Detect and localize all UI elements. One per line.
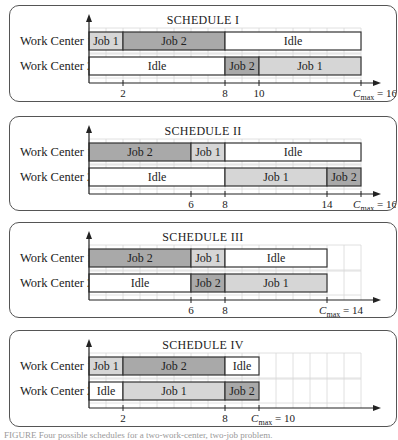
gantt-chart: Job 2Job 1IdleIdleJob 1Job 26814Cmax = 1… (10, 117, 396, 210)
bar-label: Job 2 (195, 276, 221, 290)
gantt-bar-job2: Job 2 (89, 143, 191, 161)
gantt-bar-job1: Job 1 (191, 249, 225, 267)
bar-label: Idle (97, 384, 116, 398)
tick-label: 8 (222, 412, 228, 424)
bar-label: Job 2 (161, 359, 187, 373)
tick-label: 14 (322, 198, 334, 210)
bar-label: Job 1 (161, 384, 187, 398)
gantt-bar-job1: Job 1 (225, 274, 327, 292)
gantt-bar-job1: Job 1 (123, 382, 225, 400)
gantt-bar-job2: Job 2 (327, 168, 361, 186)
bar-label: Idle (148, 170, 167, 184)
gantt-bar-job1: Job 1 (259, 57, 361, 75)
bar-label: Job 2 (229, 384, 255, 398)
bar-label: Idle (284, 145, 303, 159)
gantt-bar-idle: Idle (225, 249, 327, 267)
bar-label: Job 1 (263, 276, 289, 290)
gantt-bar-idle: Idle (225, 32, 361, 50)
bar-label: Job 1 (263, 170, 289, 184)
tick-label: 6 (188, 198, 194, 210)
cmax-label: Cmax = 16 (353, 87, 396, 101)
tick-label: 10 (254, 87, 266, 99)
bar-label: Job 2 (229, 59, 255, 73)
cmax-label: Cmax = 16 (353, 198, 396, 210)
tick-label: 8 (222, 304, 228, 316)
gantt-bar-job2: Job 2 (123, 32, 225, 50)
bar-label: Job 1 (93, 359, 119, 373)
gantt-bar-job2: Job 2 (225, 382, 259, 400)
tick-label: 8 (222, 198, 228, 210)
gantt-bar-idle: Idle (89, 57, 225, 75)
gantt-bar-job2: Job 2 (123, 357, 225, 375)
bar-label: Idle (131, 276, 150, 290)
cmax-label: Cmax = 14 (319, 304, 363, 317)
bar-label: Job 1 (93, 34, 119, 48)
schedule-panel-4: SCHEDULE IVWork Center 1Work Center 2Job… (9, 330, 397, 427)
gantt-chart: Job 2Job 1IdleIdleJob 2Job 168Cmax = 14 (10, 223, 396, 317)
tick-label: 8 (222, 87, 228, 99)
bar-label: Job 2 (161, 34, 187, 48)
gantt-bar-job2: Job 2 (225, 57, 259, 75)
tick-label: 2 (120, 87, 126, 99)
gantt-bar-job1: Job 1 (225, 168, 327, 186)
schedule-panel-1: SCHEDULE IWork Center 1Work Center 2Job … (9, 5, 397, 102)
bar-label: Idle (233, 359, 252, 373)
gantt-bar-job2: Job 2 (191, 274, 225, 292)
gantt-bar-job2: Job 2 (89, 249, 191, 267)
bar-label: Job 1 (195, 145, 221, 159)
bar-label: Idle (267, 251, 286, 265)
gantt-bar-idle: Idle (89, 382, 123, 400)
bar-label: Job 1 (195, 251, 221, 265)
gantt-chart: Job 1Job 2IdleIdleJob 1Job 228Cmax = 10 (10, 331, 396, 426)
schedule-panel-3: SCHEDULE IIIWork Center 1Work Center 2Jo… (9, 222, 397, 318)
bar-label: Job 1 (297, 59, 323, 73)
gantt-bar-idle: Idle (89, 168, 225, 186)
gantt-bar-job1: Job 1 (89, 32, 123, 50)
gantt-bar-job1: Job 1 (191, 143, 225, 161)
tick-label: 6 (188, 304, 194, 316)
bar-label: Job 2 (127, 251, 153, 265)
gantt-bar-idle: Idle (225, 143, 361, 161)
gantt-bar-job1: Job 1 (89, 357, 123, 375)
figure-caption: FIGURE Four possible schedules for a two… (4, 430, 273, 440)
cmax-label: Cmax = 10 (251, 412, 295, 426)
bar-label: Idle (148, 59, 167, 73)
bar-label: Job 2 (331, 170, 357, 184)
gantt-bar-idle: Idle (89, 274, 191, 292)
gantt-chart: Job 1Job 2IdleIdleJob 2Job 12810Cmax = 1… (10, 6, 396, 101)
bar-label: Idle (284, 34, 303, 48)
tick-label: 2 (120, 412, 126, 424)
bar-label: Job 2 (127, 145, 153, 159)
schedule-panel-2: SCHEDULE IIWork Center 1Work Center 2Job… (9, 116, 397, 211)
gantt-bar-idle: Idle (225, 357, 259, 375)
